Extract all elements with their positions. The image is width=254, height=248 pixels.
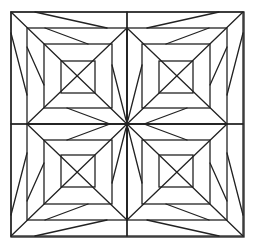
fan-line xyxy=(27,163,44,201)
quadrant-top-right xyxy=(127,12,243,124)
fan-line xyxy=(67,124,110,140)
quadrant-bottom-left xyxy=(11,124,127,236)
fan-line xyxy=(11,153,27,215)
fan-line xyxy=(67,108,110,124)
fan-line xyxy=(166,204,209,220)
fan-line xyxy=(210,163,227,201)
diagonal-line xyxy=(127,124,243,236)
diagonal-line xyxy=(11,12,127,124)
fan-line xyxy=(210,47,227,85)
fan-line xyxy=(144,124,187,140)
fan-line xyxy=(35,12,107,28)
fan-line xyxy=(227,153,243,215)
fan-line xyxy=(27,47,44,85)
fan-line xyxy=(45,204,88,220)
geometric-pattern xyxy=(0,0,254,248)
fan-line xyxy=(35,220,107,236)
fan-line xyxy=(45,28,88,44)
fan-line xyxy=(11,33,27,95)
quadrant-bottom-right xyxy=(127,124,243,236)
fan-line xyxy=(144,108,187,124)
diagonal-line xyxy=(127,12,243,124)
fan-line xyxy=(166,28,209,44)
geometric-pattern-canvas xyxy=(0,0,254,248)
fan-line xyxy=(147,220,219,236)
diagonal-line xyxy=(11,124,127,236)
quadrant-top-left xyxy=(11,12,127,124)
fan-line xyxy=(147,12,219,28)
fan-line xyxy=(227,33,243,95)
